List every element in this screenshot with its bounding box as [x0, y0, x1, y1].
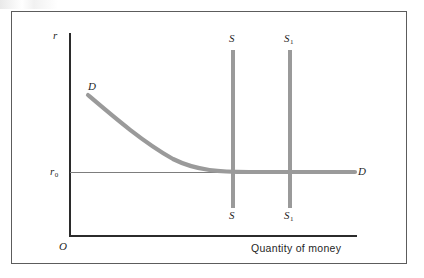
r0-axis-label: r0: [50, 166, 58, 177]
plot-area: r r0 O D D S S1 S S1 Quantity of money: [0, 0, 424, 278]
supply-label-s-bottom: S: [229, 210, 235, 221]
supply-s1-bottom-letter: S: [284, 209, 290, 221]
x-axis-label: Quantity of money: [251, 243, 341, 254]
demand-label-left: D: [88, 81, 96, 92]
figure-screenshot: r r0 O D D S S1 S S1 Quantity of money: [0, 0, 424, 278]
x-axis: [69, 235, 357, 237]
supply-s1-bottom-subscript: 1: [290, 215, 294, 223]
r0-subscript: 0: [55, 171, 59, 179]
supply-s1-top-letter: S: [284, 32, 290, 44]
y-axis-label: r: [53, 30, 57, 41]
demand-curve-d: [69, 80, 365, 190]
supply-label-s1-bottom: S1: [284, 210, 293, 221]
supply-label-s-top: S: [229, 33, 235, 44]
origin-label: O: [59, 241, 67, 252]
supply-label-s1-top: S1: [284, 33, 293, 44]
r0-letter: r: [50, 165, 54, 177]
demand-label-right: D: [358, 166, 366, 177]
supply-s1-top-subscript: 1: [290, 38, 294, 46]
